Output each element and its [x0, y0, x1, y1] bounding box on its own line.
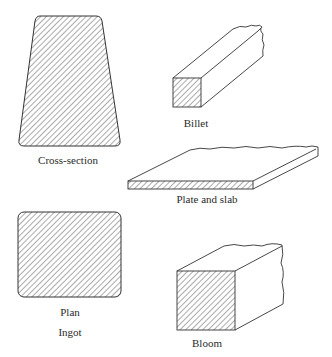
ingot-group-label: Ingot	[58, 327, 81, 338]
billet-shape	[173, 25, 264, 107]
ingot-cross-section-shape	[19, 16, 120, 146]
plate-shape	[128, 146, 318, 189]
cross-section-label: Cross-section	[38, 155, 98, 166]
ingot-plan-shape	[18, 212, 121, 297]
bloom-label: Bloom	[192, 338, 222, 349]
semi-finished-products-diagram	[0, 0, 332, 357]
plate-and-slab-label: Plate and slab	[176, 194, 237, 205]
bloom-shape	[177, 244, 284, 330]
plan-label: Plan	[60, 307, 80, 318]
billet-label: Billet	[184, 118, 208, 129]
